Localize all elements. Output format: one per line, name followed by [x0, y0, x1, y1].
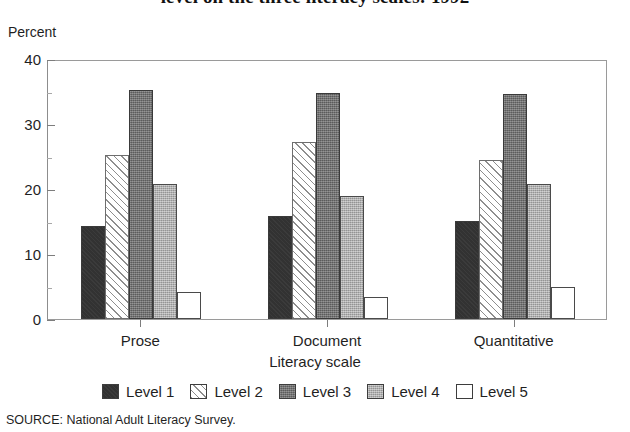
chart-title: level on the three literacy scales: 1992 — [0, 0, 630, 8]
legend-swatch-level-5 — [456, 384, 473, 399]
y-tick-label: 0 — [7, 312, 41, 327]
y-tick-label: 10 — [7, 247, 41, 262]
legend-swatch-level-4 — [367, 384, 384, 399]
bar-prose-level-1 — [81, 226, 105, 319]
bar-quantitative-level-5 — [551, 287, 575, 320]
y-tick-major — [47, 60, 55, 61]
x-axis-title: Literacy scale — [0, 353, 630, 370]
bar-document-level-1 — [268, 216, 292, 319]
y-tick-minor — [47, 158, 52, 159]
bar-prose-level-4 — [153, 184, 177, 319]
y-tick-minor — [47, 288, 52, 289]
legend-label-level-3: Level 3 — [303, 383, 351, 400]
bar-prose-level-5 — [177, 292, 201, 319]
y-tick-label: 30 — [7, 117, 41, 132]
bar-document-level-2 — [292, 142, 316, 319]
bar-quantitative-level-2 — [479, 160, 503, 319]
bar-prose-level-2 — [105, 155, 129, 319]
x-tick — [514, 320, 515, 327]
legend-swatch-level-2 — [190, 384, 207, 399]
bar-quantitative-level-1 — [455, 221, 479, 319]
y-tick-major — [47, 125, 55, 126]
chart-legend: Level 1Level 2Level 3Level 4Level 5 — [0, 383, 630, 400]
y-tick-major — [47, 255, 55, 256]
legend-swatch-level-3 — [279, 384, 296, 399]
bar-prose-level-3 — [129, 90, 153, 319]
bar-document-level-3 — [316, 93, 340, 319]
x-tick-label-quantitative: Quantitative — [434, 332, 594, 349]
bar-document-level-4 — [340, 196, 364, 320]
y-tick-label: 40 — [7, 52, 41, 67]
y-tick-label: 20 — [7, 182, 41, 197]
legend-item-level-2[interactable]: Level 2 — [190, 383, 262, 400]
legend-item-level-4[interactable]: Level 4 — [367, 383, 439, 400]
y-tick-minor — [47, 223, 52, 224]
legend-label-level-1: Level 1 — [126, 383, 174, 400]
legend-item-level-5[interactable]: Level 5 — [456, 383, 528, 400]
bar-quantitative-level-3 — [503, 94, 527, 319]
legend-item-level-1[interactable]: Level 1 — [102, 383, 174, 400]
legend-label-level-5: Level 5 — [480, 383, 528, 400]
legend-label-level-4: Level 4 — [391, 383, 439, 400]
bar-quantitative-level-4 — [527, 184, 551, 319]
x-tick — [327, 320, 328, 327]
x-tick — [140, 320, 141, 327]
legend-label-level-2: Level 2 — [214, 383, 262, 400]
y-tick-major — [47, 190, 55, 191]
x-tick-label-prose: Prose — [60, 332, 220, 349]
source-note: SOURCE: National Adult Literacy Survey. — [6, 413, 236, 427]
x-tick-label-document: Document — [247, 332, 407, 349]
y-tick-minor — [47, 93, 52, 94]
legend-item-level-3[interactable]: Level 3 — [279, 383, 351, 400]
plot-area — [47, 60, 607, 320]
bar-document-level-5 — [364, 297, 388, 319]
legend-swatch-level-1 — [102, 384, 119, 399]
y-tick-major — [47, 320, 55, 321]
